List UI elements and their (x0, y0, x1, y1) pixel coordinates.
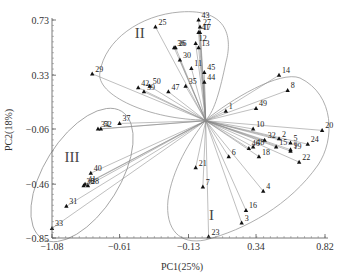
data-point: 49 (254, 99, 267, 110)
point-label: 44 (207, 73, 215, 82)
triangle-marker-icon (153, 24, 157, 28)
point-label: 3 (245, 214, 249, 223)
x-axis-title: PC1(25%) (161, 261, 203, 273)
x-tick-label: −0.61 (108, 241, 131, 252)
point-label: 16 (249, 201, 257, 210)
point-label: 52 (104, 120, 112, 129)
point-label: 26 (179, 39, 187, 48)
pca-biplot: 2529423950473536263011454443271741121314… (0, 0, 342, 274)
y-tick-label: −0.06 (26, 124, 49, 135)
data-point: 32 (262, 131, 275, 142)
x-tick-label: −0.13 (177, 241, 200, 252)
data-point: 41 (196, 23, 209, 34)
triangle-marker-icon (257, 154, 261, 158)
triangle-marker-icon (166, 89, 170, 93)
point-label: 45 (207, 63, 215, 72)
point-label: 37 (123, 114, 131, 123)
triangle-marker-icon (178, 58, 182, 62)
data-point: 21 (193, 159, 206, 170)
point-label: 21 (199, 159, 207, 168)
loading-vector (144, 92, 206, 121)
y-tick-label: 0.33 (32, 70, 50, 81)
loading-vector (168, 92, 205, 121)
point-label: 22 (302, 153, 310, 162)
data-point: 16 (244, 201, 257, 212)
point-label: 41 (202, 23, 210, 32)
triangle-marker-icon (247, 146, 251, 150)
point-label: 33 (55, 219, 63, 228)
data-point: 3 (239, 214, 248, 225)
point-label: 32 (268, 131, 276, 140)
point-label: 10 (256, 120, 264, 129)
point-label: 24 (311, 135, 319, 144)
triangle-marker-icon (193, 165, 197, 169)
triangle-marker-icon (136, 85, 140, 89)
point-label: 35 (189, 77, 197, 86)
data-points: 2529423950473536263011454443271741121314… (50, 11, 333, 238)
triangle-marker-icon (193, 41, 197, 45)
group-label-II: II (135, 25, 145, 41)
group-label-III: III (65, 149, 80, 165)
point-label: 9 (294, 141, 298, 150)
triangle-marker-icon (254, 106, 258, 110)
point-label: 11 (194, 59, 202, 68)
triangle-marker-icon (90, 71, 94, 75)
point-label: 40 (94, 164, 102, 173)
point-label: 47 (171, 83, 179, 92)
point-label: 25 (158, 18, 166, 27)
data-point: 44 (202, 73, 215, 84)
point-label: 7 (206, 178, 210, 187)
data-point: 18 (257, 148, 270, 159)
data-point: 26 (173, 39, 186, 50)
y-tick-label: −0.46 (26, 179, 49, 190)
triangle-marker-icon (227, 154, 231, 158)
triangle-marker-icon (196, 45, 200, 49)
point-label: 13 (202, 39, 210, 48)
data-point: 7 (201, 178, 210, 189)
triangle-marker-icon (117, 121, 121, 125)
point-label: 20 (325, 121, 333, 130)
data-point: 40 (89, 164, 102, 175)
loading-vector (88, 121, 206, 186)
data-point: 20 (320, 121, 333, 132)
point-label: 29 (95, 65, 103, 74)
triangle-marker-icon (89, 171, 93, 175)
y-tick-label: 0.73 (32, 15, 50, 26)
point-label: 18 (262, 148, 270, 157)
point-label: 8 (291, 81, 295, 90)
loading-vector (206, 121, 291, 150)
point-label: 1 (229, 102, 233, 111)
y-axis-title: PC2(18%) (3, 109, 15, 151)
loading-vector (120, 121, 206, 124)
point-label: 49 (259, 99, 267, 108)
data-point: 15 (274, 138, 287, 149)
axes: 0.730.33−0.06−0.46−0.85−1.08−0.61−0.130.… (26, 15, 334, 253)
triangle-marker-icon (196, 18, 200, 22)
data-point: 14 (277, 66, 290, 77)
group-label-I: I (209, 207, 214, 223)
data-point: 10 (251, 120, 264, 131)
triangle-marker-icon (201, 185, 205, 189)
point-label: 23 (212, 228, 220, 237)
data-point: 29 (90, 65, 103, 76)
point-label: 46 (252, 139, 260, 148)
data-point: 6 (227, 148, 236, 159)
x-tick-label: 0.34 (247, 241, 265, 252)
data-point: 1 (224, 102, 233, 113)
data-point: 30 (178, 51, 191, 62)
triangle-marker-icon (277, 73, 281, 77)
data-point: 31 (64, 197, 77, 208)
point-label: 50 (153, 77, 161, 86)
point-label: 30 (183, 51, 191, 60)
loading-vector (52, 121, 206, 229)
point-label: 31 (69, 197, 77, 206)
triangle-marker-icon (239, 220, 243, 224)
point-label: 4 (266, 182, 270, 191)
data-point: 8 (285, 81, 294, 92)
data-point: 25 (153, 18, 166, 29)
data-point: 24 (306, 135, 319, 146)
point-label: 15 (279, 138, 287, 147)
loading-vector (66, 121, 205, 207)
triangle-marker-icon (189, 66, 193, 70)
triangle-marker-icon (64, 204, 68, 208)
